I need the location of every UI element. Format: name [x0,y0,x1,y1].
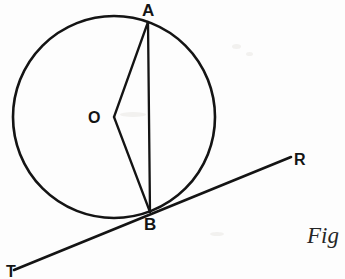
radius-ob-line [114,117,150,212]
figure-caption: Fig [307,224,339,247]
point-label-t: T [6,264,16,279]
point-label-a: A [142,2,154,19]
point-label-b: B [144,216,156,233]
radius-oa-line [114,22,148,117]
point-label-r: R [294,152,306,168]
chord-ab-line [148,22,150,212]
point-label-o: O [88,110,100,126]
tangent-tr-line [14,157,291,270]
geometry-figure: A O B R T Fig [0,0,345,279]
geometry-canvas [0,0,345,279]
